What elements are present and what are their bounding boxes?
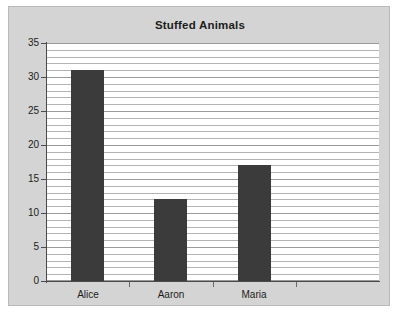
gridline [46, 70, 379, 71]
y-axis-tick [41, 145, 46, 146]
gridline [46, 63, 379, 64]
y-axis-tick-label: 10 [15, 208, 39, 218]
gridline [46, 57, 379, 58]
y-axis-tick [41, 281, 46, 282]
gridline [46, 145, 379, 146]
y-axis-tick-label: 0 [15, 276, 39, 286]
gridline [46, 165, 379, 166]
y-axis-tick-label: 15 [15, 174, 39, 184]
gridline [46, 104, 379, 105]
gridline [46, 131, 379, 132]
gridline [46, 77, 379, 78]
gridline [46, 227, 379, 228]
y-axis-tick-label: 30 [15, 72, 39, 82]
x-axis-tick [129, 282, 130, 287]
y-axis-tick [41, 77, 46, 78]
y-axis-tick-label: 20 [15, 140, 39, 150]
gridline [46, 220, 379, 221]
gridline [46, 193, 379, 194]
chart-title: Stuffed Animals [9, 19, 391, 31]
x-axis-tick [213, 282, 214, 287]
gridline [46, 138, 379, 139]
gridline [46, 186, 379, 187]
gridline [46, 213, 379, 214]
gridline [46, 43, 379, 44]
gridline [46, 118, 379, 119]
gridline [46, 199, 379, 200]
y-axis-line [46, 42, 47, 283]
y-axis-tick-label: 35 [15, 38, 39, 48]
gridline [46, 179, 379, 180]
gridline [46, 233, 379, 234]
y-axis-tick [41, 247, 46, 248]
y-axis-tick [41, 111, 46, 112]
gridline [46, 125, 379, 126]
gridline [46, 240, 379, 241]
gridline [46, 274, 379, 275]
x-axis-tick-label: Alice [77, 289, 99, 301]
y-axis-tick [41, 43, 46, 44]
chart-figure: Stuffed Animals 05101520253035 AliceAaro… [8, 6, 390, 306]
y-axis-tick [41, 179, 46, 180]
gridline [46, 111, 379, 112]
gridline [46, 50, 379, 51]
x-axis-tick-label: Maria [241, 289, 266, 301]
gridline [46, 91, 379, 92]
gridline [46, 267, 379, 268]
y-axis-tick [41, 213, 46, 214]
y-axis-tick-labels: 05101520253035 [9, 7, 39, 307]
x-axis-tick-label: Aaron [158, 289, 185, 301]
y-axis-tick-label: 5 [15, 242, 39, 252]
gridlines [46, 43, 379, 281]
gridline [46, 254, 379, 255]
gridline [46, 97, 379, 98]
chart-screenshot: Stuffed Animals 05101520253035 AliceAaro… [0, 0, 398, 317]
gridline [46, 159, 379, 160]
gridline [46, 84, 379, 85]
gridline [46, 261, 379, 262]
gridline [46, 152, 379, 153]
y-axis-tick-label: 25 [15, 106, 39, 116]
gridline [46, 206, 379, 207]
x-axis-tick [296, 282, 297, 287]
plot-area [46, 43, 379, 281]
gridline [46, 172, 379, 173]
gridline [46, 247, 379, 248]
